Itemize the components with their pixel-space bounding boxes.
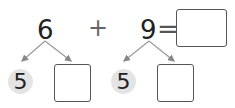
addend-two: 9: [140, 17, 157, 43]
plus-sign: +: [88, 16, 108, 40]
given-part-right: 5: [111, 69, 136, 94]
blank-part-left[interactable]: [54, 64, 91, 102]
blank-part-right[interactable]: [157, 64, 194, 102]
answer-box[interactable]: [176, 9, 227, 47]
addend-one: 6: [37, 17, 54, 43]
given-part-left: 5: [8, 69, 33, 94]
